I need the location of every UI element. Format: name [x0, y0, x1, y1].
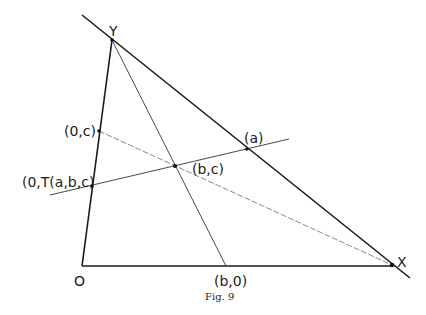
label-t: (0,T(a,b,c) [22, 174, 94, 190]
point-a [245, 147, 249, 151]
point-bc [173, 164, 177, 168]
label-a: (a) [244, 130, 264, 146]
label-o: O [74, 273, 85, 289]
label-b0: (b,0) [214, 273, 247, 289]
figure-caption: Fig. 9 [205, 291, 234, 302]
line-yx [82, 15, 410, 278]
line-y-b0 [112, 40, 226, 266]
label-bc: (b,c) [192, 161, 224, 177]
label-x: X [397, 254, 407, 270]
line-0c-x [99, 131, 392, 265]
line-oy [82, 40, 112, 266]
projective-diagram: Y X O (0,c) (0,T(a,b,c) (b,c) (a) (b,0) … [0, 0, 426, 315]
point-x [390, 263, 394, 267]
label-y: Y [108, 23, 118, 39]
point-0c [97, 129, 101, 133]
label-0c: (0,c) [64, 123, 96, 139]
